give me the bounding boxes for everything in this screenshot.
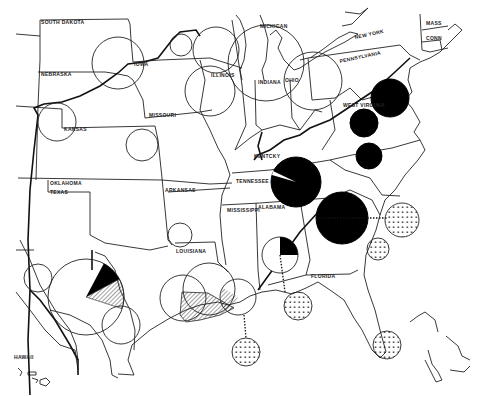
circle-texas-panhandle xyxy=(24,264,52,292)
circle-gulf-offshore-2 xyxy=(284,292,312,320)
label-oklahoma: OKLAHOMA xyxy=(50,180,82,186)
label-nebraska: NEBRASKA xyxy=(41,71,72,77)
label-ohio: OHIO xyxy=(285,77,299,83)
circle-georgia xyxy=(316,192,368,244)
map-container: SOUTH DAKOTA NEBRASKA IOWA ILLINOIS MISS… xyxy=(0,0,492,396)
label-texas: TEXAS xyxy=(50,189,69,195)
label-mississippi: MISSISSIPPI xyxy=(227,207,260,213)
circle-tennessee xyxy=(271,157,321,207)
label-louisiana: LOUISIANA xyxy=(176,248,206,254)
us-map: SOUTH DAKOTA NEBRASKA IOWA ILLINOIS MISS… xyxy=(0,0,492,396)
circle-new-orleans xyxy=(220,279,256,315)
circle-michigan-indiana xyxy=(228,25,304,101)
circle-chicago xyxy=(193,27,239,73)
label-michigan: MICHIGAN xyxy=(260,23,288,29)
circle-west-virginia xyxy=(350,109,378,137)
circle-arkansas-south xyxy=(168,223,192,247)
label-tennessee: TENNESSEE xyxy=(236,178,269,184)
label-kentucky: KENTCKY xyxy=(254,153,281,159)
circle-alabama xyxy=(262,237,298,292)
label-indiana: INDIANA xyxy=(258,79,281,85)
label-conn: CONN xyxy=(426,35,442,41)
label-alabama: ALABAMA xyxy=(258,204,285,210)
circle-gulf-offshore-1 xyxy=(232,338,260,366)
circle-virginia-south xyxy=(356,143,382,169)
label-iowa: IOWA xyxy=(134,61,149,67)
circle-atlantic-fl xyxy=(367,238,389,260)
label-kansas: KANSAS xyxy=(64,126,87,132)
circle-texas-central xyxy=(48,259,124,335)
circle-chicago-west xyxy=(170,34,192,56)
label-mass: MASS xyxy=(426,20,442,26)
label-arkansas: ARKANSAS xyxy=(165,187,196,193)
circle-atlantic-ga xyxy=(385,203,419,237)
circle-maryland xyxy=(371,79,409,117)
label-illinois: ILLINOIS xyxy=(211,72,235,78)
label-new-york: NEW YORK xyxy=(354,28,384,40)
circle-south-florida xyxy=(373,331,401,359)
label-pennsylvania: PENNSYLVANIA xyxy=(339,49,381,64)
label-florida: FLORIDA xyxy=(311,273,335,279)
label-missouri: MISSOURI xyxy=(149,112,176,118)
label-west-virginia: WEST VIRGINIA xyxy=(343,102,385,108)
circle-kansas-east xyxy=(126,129,158,161)
label-hawaii: HAWAII xyxy=(14,354,34,360)
label-south-dakota: SOUTH DAKOTA xyxy=(41,19,85,25)
